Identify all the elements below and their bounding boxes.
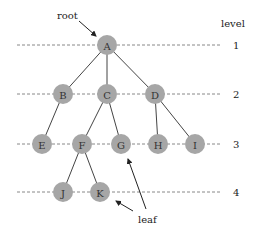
tree-canvas: 1234 ABCDEFGHIJK level root leaf	[0, 0, 255, 240]
level-number-4: 4	[233, 187, 239, 198]
node-A: A	[97, 35, 117, 55]
node-label: B	[59, 90, 66, 101]
level-lines: 1234	[17, 40, 239, 198]
tree-nodes: ABCDEFGHIJK	[32, 35, 205, 202]
node-H: H	[148, 134, 168, 154]
node-label: A	[102, 41, 111, 52]
node-label: D	[151, 90, 159, 101]
edge-A-D	[107, 45, 155, 94]
node-label: F	[79, 140, 86, 151]
root-arrow	[79, 21, 96, 36]
node-B: B	[53, 84, 73, 104]
node-K: K	[90, 182, 110, 202]
node-I: I	[185, 134, 205, 154]
node-E: E	[32, 134, 52, 154]
level-number-2: 2	[233, 89, 239, 100]
leaf-arrow-g	[128, 159, 146, 209]
leaf-label: leaf	[138, 214, 158, 225]
node-C: C	[97, 84, 117, 104]
node-label: H	[154, 140, 163, 151]
level-number-3: 3	[233, 139, 239, 150]
leaf-arrow-k	[116, 201, 133, 211]
tree-edges	[42, 45, 195, 192]
root-label: root	[57, 10, 78, 21]
node-label: G	[117, 140, 125, 151]
tree-diagram: 1234 ABCDEFGHIJK level root leaf	[0, 0, 255, 240]
node-G: G	[111, 134, 131, 154]
node-J: J	[53, 182, 73, 202]
node-F: F	[72, 134, 92, 154]
node-label: C	[103, 90, 111, 101]
node-D: D	[145, 84, 165, 104]
level-number-1: 1	[233, 40, 239, 51]
node-label: K	[96, 188, 104, 199]
node-label: J	[60, 188, 65, 199]
node-label: I	[193, 140, 197, 151]
node-label: E	[38, 140, 45, 151]
level-header: level	[221, 18, 245, 29]
